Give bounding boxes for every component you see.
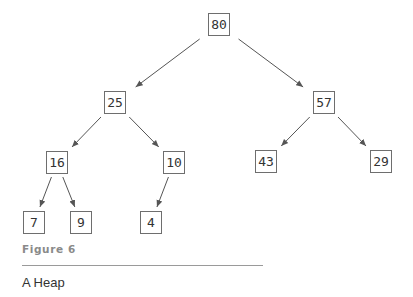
tree-edge-arrow [40, 177, 52, 207]
heap-node: 7 [23, 211, 45, 234]
tree-edge-arrow [281, 117, 310, 146]
heap-node: 16 [46, 151, 68, 174]
tree-edge-arrow [239, 39, 304, 87]
tree-edge-arrow [129, 117, 159, 147]
heap-node: 57 [313, 91, 335, 114]
heap-diagram: 80 25 57 16 10 43 29 7 9 4 Figure 6 A He… [0, 0, 413, 297]
node-value: 16 [49, 155, 65, 170]
caption-divider [22, 265, 263, 266]
node-value: 80 [211, 17, 227, 32]
heap-node-root: 80 [208, 13, 230, 36]
figure-label: Figure 6 [22, 243, 76, 255]
node-value: 9 [77, 215, 85, 230]
node-value: 7 [30, 215, 38, 230]
heap-node: 43 [255, 150, 277, 173]
node-value: 4 [147, 215, 155, 230]
tree-edge-arrow [157, 177, 169, 207]
node-value: 57 [316, 95, 332, 110]
node-value: 29 [373, 154, 389, 169]
tree-edge-arrow [338, 117, 366, 146]
tree-edge-arrow [136, 39, 200, 87]
tree-edge-arrow [63, 177, 75, 207]
heap-node: 25 [104, 91, 126, 114]
node-value: 43 [258, 154, 274, 169]
heap-node: 9 [70, 211, 92, 234]
heap-node: 10 [163, 151, 185, 174]
node-value: 25 [107, 95, 123, 110]
tree-edge-arrow [72, 117, 101, 147]
figure-caption: A Heap [22, 275, 65, 290]
heap-node: 29 [370, 150, 392, 173]
heap-node: 4 [140, 211, 162, 234]
node-value: 10 [166, 155, 182, 170]
